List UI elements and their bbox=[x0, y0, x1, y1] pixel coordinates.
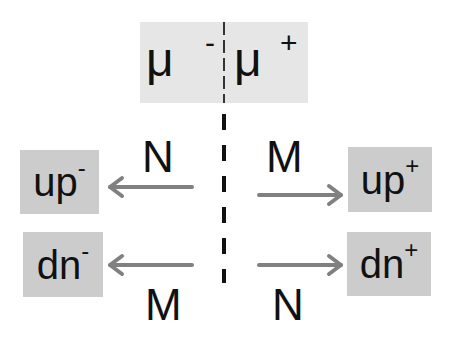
arrow-left-upper-icon bbox=[110, 178, 192, 196]
arrow-right-lower-icon bbox=[259, 256, 341, 274]
arrow-right-upper-icon bbox=[259, 186, 341, 204]
arrow-left-lower-icon bbox=[110, 256, 192, 274]
arrows-layer bbox=[0, 0, 449, 339]
diagram-canvas: μ - μ + up- dn- up+ dn+ N M M N bbox=[0, 0, 449, 339]
